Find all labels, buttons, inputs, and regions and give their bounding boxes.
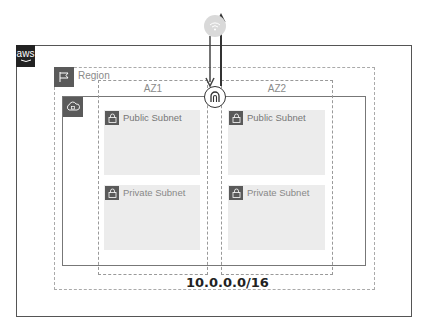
wifi-icon xyxy=(204,15,226,37)
internet-gateway-icon xyxy=(204,86,226,108)
vpc-cidr-label: 10.0.0.0/16 xyxy=(186,275,269,290)
